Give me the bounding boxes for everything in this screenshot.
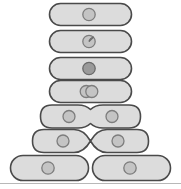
- stage-3-nucleoid-replicated: [83, 62, 95, 74]
- stage-5-nucleoid-right: [106, 111, 118, 123]
- stage-4-group: [50, 81, 132, 103]
- cell-division-diagram: [0, 0, 181, 189]
- stage-7-nucleoid-right: [124, 162, 136, 174]
- stage-7-group: [11, 156, 171, 181]
- binary-fission-figure: [0, 0, 181, 189]
- stage-7-nucleoid-left: [42, 162, 54, 174]
- stage-1-nucleoid: [83, 8, 95, 20]
- stage-6-cell-septum: [33, 130, 149, 153]
- stage-2-group: [50, 31, 132, 53]
- stage-5-cell-constricting: [41, 105, 141, 128]
- stage-5-group: [41, 105, 141, 128]
- stage-1-group: [50, 4, 132, 26]
- stage-5-nucleoid-left: [63, 111, 75, 123]
- stage-6-group: [33, 130, 149, 153]
- stage-3-group: [50, 58, 132, 80]
- stage-6-nucleoid-left: [57, 135, 69, 147]
- stage-4-nucleoid-right: [86, 86, 98, 98]
- stage-6-nucleoid-right: [112, 135, 124, 147]
